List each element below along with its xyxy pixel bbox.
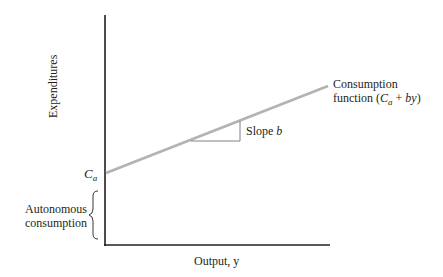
consumption-function-diagram (0, 0, 443, 277)
consumption-function-line (106, 86, 328, 173)
autonomous-line2: consumption (25, 216, 87, 230)
intercept-main: C (84, 166, 93, 181)
cf-close: ) (417, 91, 421, 105)
autonomous-brace (89, 191, 98, 239)
cf-formula-c: Ca (380, 91, 393, 105)
cf-line2: function (Ca + by) (333, 91, 421, 109)
slope-label: Slope b (246, 124, 282, 139)
x-axis-label: Output, y (194, 254, 239, 269)
autonomous-line1: Autonomous (25, 202, 87, 216)
autonomous-consumption-label: Autonomous consumption (25, 202, 87, 230)
cf-c: C (380, 91, 388, 105)
intercept-sub: a (93, 173, 98, 183)
intercept-label: Ca (84, 166, 97, 183)
y-axis-label: Expenditures (46, 55, 61, 118)
cf-line1: Consumption (333, 77, 421, 91)
slope-text: Slope (246, 124, 276, 138)
cf-plus: + (393, 91, 406, 105)
cf-by: by (405, 91, 416, 105)
consumption-function-label: Consumption function (Ca + by) (333, 77, 421, 109)
slope-var: b (276, 124, 282, 138)
cf-prefix: function ( (333, 91, 380, 105)
